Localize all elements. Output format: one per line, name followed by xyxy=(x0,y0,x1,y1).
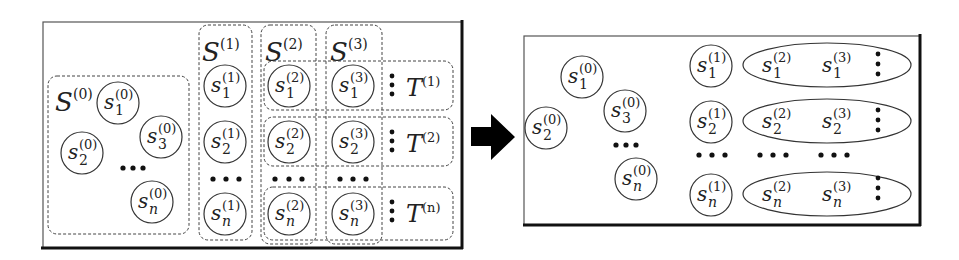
svg-text:(1): (1) xyxy=(222,126,240,141)
svg-text:(0): (0) xyxy=(149,186,167,201)
svg-text:(2): (2) xyxy=(773,179,791,194)
state-node-label: s xyxy=(339,129,349,153)
state-node-label: s xyxy=(339,201,349,225)
svg-text:(3): (3) xyxy=(833,179,851,194)
svg-text:3: 3 xyxy=(622,110,631,126)
tuple-item-label: s xyxy=(822,182,832,206)
tuple-item-label: s xyxy=(762,53,772,77)
svg-text:n: n xyxy=(833,194,842,210)
svg-text:1: 1 xyxy=(115,102,124,118)
set-2-label: S xyxy=(265,37,283,67)
svg-text:(0): (0) xyxy=(579,61,597,76)
transform-arrow-icon xyxy=(471,114,515,160)
svg-text:(0): (0) xyxy=(543,112,561,127)
svg-text:(1): (1) xyxy=(708,50,726,65)
svg-text:1: 1 xyxy=(286,85,295,101)
svg-text:(1): (1) xyxy=(222,198,240,213)
state-node-label: s xyxy=(275,201,285,225)
svg-text:2: 2 xyxy=(79,152,88,168)
state-node-label: s xyxy=(532,115,542,139)
svg-text:(3): (3) xyxy=(350,126,368,141)
svg-text:(2): (2) xyxy=(283,36,303,52)
svg-text:(3): (3) xyxy=(350,198,368,213)
svg-text:(n): (n) xyxy=(422,200,441,215)
svg-text:(0): (0) xyxy=(158,121,176,136)
state-node-label: s xyxy=(697,53,707,77)
svg-text:(1): (1) xyxy=(708,106,726,121)
right-nodes: s1(0)s3(0)s2(0)sn(0)s1(1)s1(2)s1(3)s2(1)… xyxy=(525,45,851,216)
svg-text:2: 2 xyxy=(833,121,842,137)
horizontal-ellipsis-icon xyxy=(120,165,368,181)
svg-text:1: 1 xyxy=(579,76,588,92)
vertical-ellipsis-icon xyxy=(390,74,395,223)
svg-text:(0): (0) xyxy=(622,95,640,110)
state-node-label: s xyxy=(211,201,221,225)
tuple-item-label: s xyxy=(762,109,772,133)
svg-text:(3): (3) xyxy=(833,106,851,121)
state-node-label: s xyxy=(339,73,349,97)
svg-text:2: 2 xyxy=(543,127,552,143)
svg-text:(2): (2) xyxy=(286,70,304,85)
svg-text:2: 2 xyxy=(286,141,295,157)
left-nodes: s1(0)s3(0)s2(0)sn(0)s1(1)s2(1)sn(1)s1(2)… xyxy=(61,65,374,235)
vertical-ellipsis-icon xyxy=(876,52,881,201)
svg-text:(2): (2) xyxy=(773,106,791,121)
svg-text:2: 2 xyxy=(222,141,231,157)
svg-text:(3): (3) xyxy=(348,36,368,52)
state-node-label: s xyxy=(211,129,221,153)
state-node-label: s xyxy=(138,189,148,213)
svg-text:3: 3 xyxy=(158,136,167,152)
svg-text:n: n xyxy=(708,194,717,210)
svg-text:(2): (2) xyxy=(773,50,791,65)
state-node-label: s xyxy=(68,140,78,164)
state-node-label: s xyxy=(697,182,707,206)
svg-text:(3): (3) xyxy=(350,70,368,85)
svg-text:n: n xyxy=(633,178,642,194)
svg-text:(2): (2) xyxy=(422,130,440,145)
svg-text:1: 1 xyxy=(350,85,359,101)
svg-text:n: n xyxy=(222,213,231,229)
svg-text:(1): (1) xyxy=(220,36,240,52)
tuple-item-label: s xyxy=(822,109,832,133)
tuple-item-label: s xyxy=(762,182,772,206)
svg-text:(0): (0) xyxy=(633,163,651,178)
svg-text:n: n xyxy=(286,213,295,229)
state-node-label: s xyxy=(275,73,285,97)
svg-text:n: n xyxy=(350,213,359,229)
svg-text:(2): (2) xyxy=(286,198,304,213)
tuple-item-label: s xyxy=(822,53,832,77)
state-node-label: s xyxy=(275,129,285,153)
state-node-label: s xyxy=(104,90,114,114)
set-1-label: S xyxy=(202,37,220,67)
svg-text:(3): (3) xyxy=(833,50,851,65)
set-0-label: S xyxy=(55,87,73,117)
svg-text:(1): (1) xyxy=(708,179,726,194)
svg-text:1: 1 xyxy=(833,65,842,81)
svg-text:1: 1 xyxy=(222,85,231,101)
left-panel: S (0) S (1) S (2) S (3) T (1) T (2) T (n… xyxy=(41,20,463,249)
svg-text:(0): (0) xyxy=(79,137,97,152)
svg-text:1: 1 xyxy=(773,65,782,81)
diagram-canvas: S (0) S (1) S (2) S (3) T (1) T (2) T (n… xyxy=(0,0,959,260)
svg-text:2: 2 xyxy=(708,121,717,137)
state-node-label: s xyxy=(622,166,632,190)
set-3-label: S xyxy=(330,37,348,67)
svg-text:(0): (0) xyxy=(115,87,133,102)
state-node-label: s xyxy=(147,124,157,148)
state-node-label: s xyxy=(568,64,578,88)
state-node-label: s xyxy=(211,73,221,97)
svg-text:(0): (0) xyxy=(73,86,93,102)
svg-text:n: n xyxy=(149,201,158,217)
svg-text:2: 2 xyxy=(350,141,359,157)
svg-text:2: 2 xyxy=(773,121,782,137)
svg-text:n: n xyxy=(773,194,782,210)
horizontal-ellipsis-icon xyxy=(613,142,849,157)
state-node-label: s xyxy=(697,109,707,133)
state-node-label: s xyxy=(611,98,621,122)
svg-text:(1): (1) xyxy=(222,70,240,85)
svg-text:(1): (1) xyxy=(422,74,440,89)
svg-text:1: 1 xyxy=(708,65,717,81)
svg-text:(2): (2) xyxy=(286,126,304,141)
right-panel: s1(0)s3(0)s2(0)sn(0)s1(1)s1(2)s1(3)s2(1)… xyxy=(523,34,921,226)
